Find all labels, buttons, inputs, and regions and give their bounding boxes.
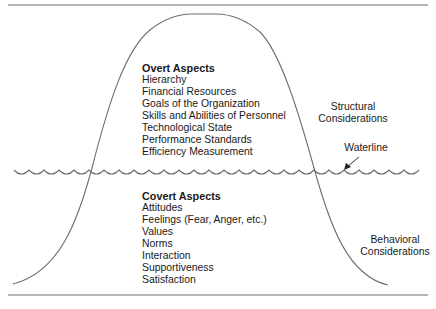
behavioral-label-line1: Behavioral [345,234,436,246]
waterline-wave [14,170,419,174]
covert-heading: Covert Aspects [142,190,267,202]
overt-items-list: HierarchyFinancial ResourcesGoals of the… [142,74,286,158]
covert-aspects-block: Covert Aspects AttitudesFeelings (Fear, … [142,190,267,286]
overt-item: Performance Standards [142,134,286,146]
covert-item: Supportiveness [142,262,267,274]
overt-item: Technological State [142,122,286,134]
overt-heading: Overt Aspects [142,62,286,74]
covert-item: Feelings (Fear, Anger, etc.) [142,214,267,226]
covert-item: Satisfaction [142,274,267,286]
behavioral-considerations-label: Behavioral Considerations [345,234,436,258]
structural-label-line2: Considerations [301,113,405,125]
covert-item: Attitudes [142,202,267,214]
covert-item: Values [142,226,267,238]
covert-item: Interaction [142,250,267,262]
waterline-label: Waterline [338,142,394,154]
overt-aspects-block: Overt Aspects HierarchyFinancial Resourc… [142,62,286,158]
overt-item: Hierarchy [142,74,286,86]
overt-item: Efficiency Measurement [142,146,286,158]
structural-considerations-label: Structural Considerations [301,101,405,125]
behavioral-label-line2: Considerations [345,246,436,258]
overt-item: Financial Resources [142,86,286,98]
overt-item: Goals of the Organization [142,98,286,110]
covert-items-list: AttitudesFeelings (Fear, Anger, etc.)Val… [142,202,267,286]
structural-label-line1: Structural [301,101,405,113]
covert-item: Norms [142,238,267,250]
overt-item: Skills and Abilities of Personnel [142,110,286,122]
